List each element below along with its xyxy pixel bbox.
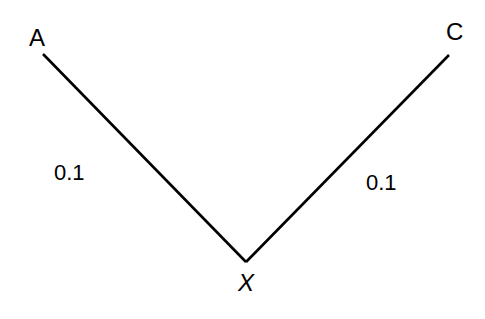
edge-weight-x-c: 0.1 — [366, 172, 397, 194]
edge-x-c — [246, 55, 449, 262]
node-label-a: A — [29, 26, 45, 50]
node-label-x: X — [238, 271, 254, 295]
edge-x-a — [43, 54, 246, 262]
node-label-c: C — [446, 20, 463, 44]
edge-weight-x-a: 0.1 — [54, 162, 85, 184]
